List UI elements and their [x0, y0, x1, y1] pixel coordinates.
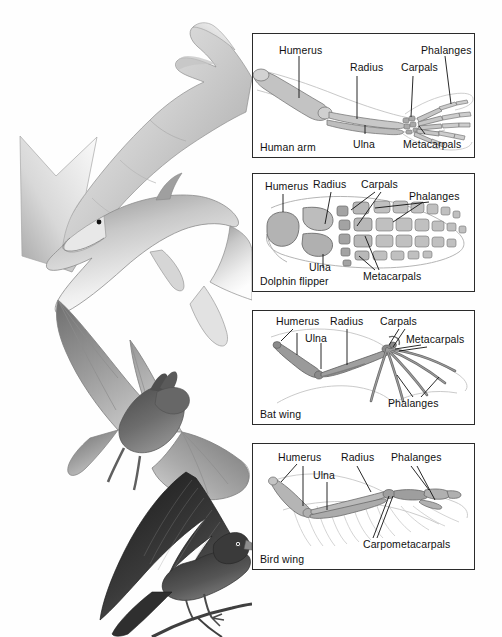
label-phalanges: Phalanges	[421, 44, 472, 56]
label-phalanges: Phalanges	[388, 397, 439, 409]
panel-caption-human-arm: Human arm	[260, 141, 316, 153]
label-ulna: Ulna	[313, 469, 335, 481]
label-ulna: Ulna	[305, 332, 327, 344]
label-ulna: Ulna	[309, 261, 331, 273]
label-phalanges: Phalanges	[391, 451, 442, 463]
illustration-artwork	[0, 0, 252, 637]
label-humerus: Humerus	[279, 44, 322, 56]
label-carpals: Carpals	[401, 61, 438, 73]
panel-dolphin-flipper: Humerus Radius Carpals Phalanges Ulna Me…	[252, 173, 475, 292]
panel-caption-dolphin-flipper: Dolphin flipper	[260, 275, 329, 287]
label-phalanges: Phalanges	[409, 190, 460, 202]
label-carpals: Carpals	[361, 178, 398, 190]
panel-bird-wing: Humerus Radius Phalanges Ulna Carpometac…	[252, 443, 475, 570]
illustration-column	[0, 0, 252, 637]
label-humerus: Humerus	[265, 180, 308, 192]
label-metacarpals: Metacarpals	[406, 333, 464, 345]
label-humerus: Humerus	[278, 451, 321, 463]
label-ulna: Ulna	[353, 138, 375, 150]
label-radius: Radius	[330, 315, 363, 327]
label-humerus: Humerus	[276, 315, 319, 327]
panel-caption-bird-wing: Bird wing	[260, 553, 304, 565]
homology-figure: Humerus Radius Carpals Phalanges Ulna Me…	[0, 0, 502, 637]
label-metacarpals: Metacarpals	[403, 138, 461, 150]
label-radius: Radius	[313, 178, 346, 190]
panel-caption-bat-wing: Bat wing	[260, 408, 301, 420]
label-carpals: Carpals	[380, 315, 417, 327]
label-metacarpals: Metacarpals	[363, 270, 421, 282]
label-radius: Radius	[341, 451, 374, 463]
panel-human-arm: Humerus Radius Carpals Phalanges Ulna Me…	[252, 33, 475, 158]
panel-bat-wing: Humerus Radius Carpals Ulna Metacarpals …	[252, 310, 475, 425]
label-carpometacarpals: Carpometacarpals	[363, 538, 450, 550]
label-radius: Radius	[350, 61, 383, 73]
